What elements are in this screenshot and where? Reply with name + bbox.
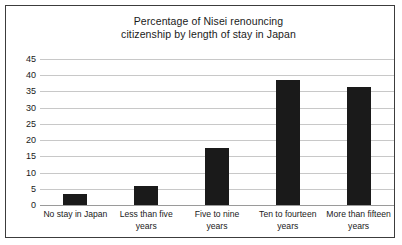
x-axis-category-label: Less than fiveyears: [111, 209, 182, 243]
y-axis-tick-label: 25: [26, 119, 36, 129]
bar: [134, 186, 158, 205]
x-axis-baseline: 0: [40, 205, 394, 206]
bar: [205, 148, 229, 205]
y-axis-tick-label: 30: [26, 103, 36, 113]
gridline: 30: [40, 108, 394, 109]
y-axis-tick-label: 35: [26, 86, 36, 96]
bar: [276, 80, 300, 205]
chart-title: Percentage of Nisei renouncing citizensh…: [36, 15, 381, 41]
chart-title-line-1: Percentage of Nisei renouncing: [36, 15, 381, 28]
y-axis-tick-label: 20: [26, 135, 36, 145]
y-axis-tick-label: 10: [26, 168, 36, 178]
y-axis-tick-label: 15: [26, 151, 36, 161]
x-axis-category-label-line: years: [183, 221, 252, 233]
bar: [347, 87, 371, 205]
x-axis-category-label-line: years: [324, 221, 393, 233]
x-axis-category-label-line: More than fifteen: [324, 209, 393, 221]
x-axis-category-label-line: Less than five: [112, 209, 181, 221]
x-axis-category-label: Five to nineyears: [182, 209, 253, 243]
x-axis-labels: No stay in JapanLess than fiveyearsFive …: [40, 209, 394, 243]
x-axis-category-label-line: years: [112, 221, 181, 233]
x-axis-category-label: More than fifteenyears: [323, 209, 394, 243]
gridline: 40: [40, 75, 394, 76]
y-axis-tick-label: 5: [31, 184, 36, 194]
y-axis-tick-label: 40: [26, 70, 36, 80]
x-axis-category-label: No stay in Japan: [40, 209, 111, 243]
gridline: 35: [40, 91, 394, 92]
chart-title-line-2: citizenship by length of stay in Japan: [36, 28, 381, 41]
x-axis-category-label-line: No stay in Japan: [41, 209, 110, 221]
plot-area: 051015202530354045: [40, 59, 394, 205]
y-axis-tick-label: 0: [31, 200, 36, 210]
bar: [63, 194, 87, 205]
x-axis-category-label-line: Ten to fourteen: [253, 209, 322, 221]
chart-frame: Percentage of Nisei renouncing citizensh…: [5, 5, 395, 238]
chart-figure: Percentage of Nisei renouncing citizensh…: [0, 0, 402, 245]
x-axis-category-label-line: years: [253, 221, 322, 233]
gridline: 45: [40, 59, 394, 60]
x-axis-category-label: Ten to fourteenyears: [252, 209, 323, 243]
y-axis-tick-label: 45: [26, 54, 36, 64]
gridline: 20: [40, 140, 394, 141]
x-axis-category-label-line: Five to nine: [183, 209, 252, 221]
gridline: 25: [40, 124, 394, 125]
